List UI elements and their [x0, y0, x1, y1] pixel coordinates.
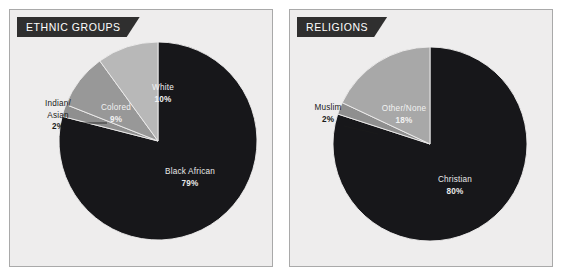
- panel-religions: Christian80%Muslim2%Other/None18% RELIGI…: [289, 9, 553, 267]
- pie-value-black-african: 79%: [182, 179, 200, 188]
- pie-name-indian-asian: Indian/: [45, 99, 72, 108]
- pie-value-muslim: 2%: [322, 115, 335, 124]
- panel-ethnic-groups: Black African79%Indian/Asian2%Colored9%W…: [9, 9, 273, 267]
- demographics-figure: Black African79%Indian/Asian2%Colored9%W…: [0, 0, 563, 276]
- pie-name-white: White: [152, 83, 174, 92]
- pie-name-muslim: Muslim: [314, 103, 341, 112]
- banner-religions: RELIGIONS: [297, 17, 387, 37]
- pie-name-black-african: Black African: [165, 167, 215, 176]
- banner-label-ethnic-groups: ETHNIC GROUPS: [26, 22, 121, 33]
- pie-value-other-none: 18%: [396, 116, 414, 125]
- pie-name-colored: Colored: [101, 103, 131, 112]
- pie-value-colored: 9%: [110, 115, 123, 124]
- pie-chart-religions: Christian80%Muslim2%Other/None18%: [290, 10, 554, 268]
- pie-chart-ethnic-groups: Black African79%Indian/Asian2%Colored9%W…: [10, 10, 274, 268]
- pie-value-white: 10%: [155, 95, 173, 104]
- pie-name-christian: Christian: [438, 175, 472, 184]
- banner-label-religions: RELIGIONS: [306, 22, 368, 33]
- pie-value-christian: 80%: [447, 187, 465, 196]
- pie-value-indian-asian: 2%: [52, 122, 65, 131]
- banner-ethnic-groups: ETHNIC GROUPS: [17, 17, 140, 37]
- pie-name-indian-asian: Asian: [47, 111, 69, 120]
- pie-name-other-none: Other/None: [382, 104, 427, 113]
